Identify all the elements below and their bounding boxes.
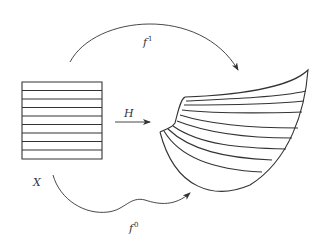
source-rectangle-x: [22, 82, 102, 159]
f1-arrow: [70, 24, 238, 70]
target-curved-sheet: [160, 70, 308, 191]
label-f0-base: f: [129, 222, 133, 235]
label-f1-sup: 1: [148, 35, 152, 43]
label-f1: f1: [143, 36, 153, 48]
label-x-text: X: [33, 176, 41, 189]
label-x: X: [33, 177, 41, 188]
label-f0: f0: [129, 222, 139, 234]
label-h-text: H: [124, 107, 134, 120]
label-h: H: [124, 108, 134, 119]
label-f1-base: f: [143, 36, 147, 49]
f0-arrow: [53, 175, 190, 212]
label-f0-sup: 0: [134, 221, 138, 229]
diagram-canvas: [0, 0, 324, 248]
